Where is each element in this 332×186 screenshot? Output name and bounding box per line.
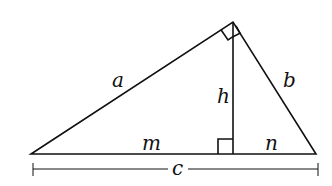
right-angle-mark-apex-2 [233,26,240,37]
right-angle-mark-apex [221,30,233,40]
label-b: b [283,70,296,90]
label-c: c [172,158,183,178]
right-angle-mark-foot [218,139,233,154]
label-h: h [217,86,230,106]
label-a: a [112,70,124,90]
triangle-figure [0,0,332,186]
triangle-diagram: a b h m n c [0,0,332,186]
label-n: n [265,133,278,153]
label-m: m [142,133,161,153]
